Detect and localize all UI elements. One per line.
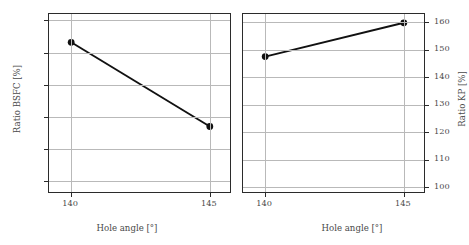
y-axis-tick <box>44 117 49 118</box>
y-axis-tick <box>44 149 49 150</box>
y-axis-tick-label: 120 <box>434 127 450 136</box>
y-axis-tick <box>44 181 49 182</box>
y-axis-tick <box>424 160 429 161</box>
y-axis-tick-label: 150 <box>434 44 450 53</box>
y-axis-tick-label: 160 <box>434 17 450 26</box>
y-axis-tick-label: 100 <box>434 182 450 191</box>
gridline-horizontal <box>49 20 230 21</box>
x-axis-title-kp: Hole angle [°] <box>235 223 469 233</box>
gridline-horizontal <box>243 132 424 133</box>
plot-area-bsfc <box>48 13 231 193</box>
y-axis-title-bsfc: Ratio BSFC [%] <box>12 54 22 144</box>
y-axis-tick <box>44 85 49 86</box>
y-axis-tick <box>424 105 429 106</box>
gridline-horizontal <box>243 187 424 188</box>
y-axis-tick <box>424 187 429 188</box>
y-axis-tick <box>424 77 429 78</box>
y-axis-tick <box>44 53 49 54</box>
chart-panel-bsfc: 10099.599.098.598.097.5140145 Ratio BSFC… <box>0 0 234 245</box>
x-axis-tick-label: 145 <box>201 199 217 208</box>
y-axis-tick-label: 130 <box>434 99 450 108</box>
x-axis-tick-label: 140 <box>62 199 78 208</box>
y-axis-tick-label: 140 <box>434 72 450 81</box>
gridline-horizontal <box>49 117 230 118</box>
gridline-horizontal <box>243 50 424 51</box>
gridline-horizontal <box>243 105 424 106</box>
gridline-vertical <box>210 14 211 192</box>
gridline-horizontal <box>49 53 230 54</box>
gridline-horizontal <box>243 22 424 23</box>
gridline-vertical <box>71 14 72 192</box>
x-axis-tick <box>265 192 266 197</box>
figure-two-panel-line-charts: 10099.599.098.598.097.5140145 Ratio BSFC… <box>0 0 469 245</box>
x-axis-tick-label: 140 <box>256 199 272 208</box>
y-axis-tick <box>44 20 49 21</box>
series-bsfc <box>49 14 230 192</box>
series-kp <box>243 14 424 192</box>
y-axis-tick <box>424 50 429 51</box>
y-axis-tick-label: 110 <box>434 154 450 163</box>
gridline-vertical <box>265 14 266 192</box>
chart-panel-kp: 160150140130120110100140145 Ratio KP [%]… <box>235 0 469 245</box>
x-axis-tick <box>404 192 405 197</box>
gridline-horizontal <box>49 85 230 86</box>
series-line <box>265 23 404 57</box>
x-axis-tick-label: 145 <box>395 199 411 208</box>
x-axis-tick <box>210 192 211 197</box>
y-axis-tick <box>424 22 429 23</box>
gridline-horizontal <box>243 160 424 161</box>
gridline-horizontal <box>243 77 424 78</box>
y-axis-title-kp: Ratio KP [%] <box>457 54 467 144</box>
x-axis-tick <box>71 192 72 197</box>
gridline-horizontal <box>49 149 230 150</box>
gridline-horizontal <box>49 181 230 182</box>
y-axis-tick <box>424 132 429 133</box>
plot-area-kp <box>242 13 425 193</box>
gridline-vertical <box>404 14 405 192</box>
x-axis-title-bsfc: Hole angle [°] <box>10 223 244 233</box>
